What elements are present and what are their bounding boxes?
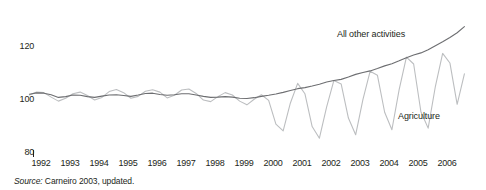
x-axis-label-1994: 1994 — [85, 158, 113, 168]
x-axis-label-2004: 2004 — [375, 158, 403, 168]
series-line-agriculture — [29, 53, 464, 138]
x-axis-label-2003: 2003 — [346, 158, 374, 168]
x-axis-label-2001: 2001 — [288, 158, 316, 168]
chart-container: 120 100 80 1992 1993 1994 1995 1996 1997… — [0, 0, 486, 190]
x-axis-label-2002: 2002 — [317, 158, 345, 168]
x-axis-label-2006: 2006 — [433, 158, 461, 168]
x-axis-label-1993: 1993 — [56, 158, 84, 168]
all-other-activities-label: All other activities — [337, 29, 405, 39]
source-note-keyword: Source: — [14, 176, 43, 186]
y-axis-label-100: 100 — [10, 94, 34, 104]
x-axis-label-1999: 1999 — [230, 158, 258, 168]
x-axis-label-1996: 1996 — [143, 158, 171, 168]
x-axis-label-1992: 1992 — [27, 158, 55, 168]
agriculture-label: Agriculture — [398, 111, 440, 121]
x-axis-label-1998: 1998 — [201, 158, 229, 168]
x-axis-label-2005: 2005 — [404, 158, 432, 168]
y-axis-label-80: 80 — [10, 147, 34, 157]
y-axis-label-120: 120 — [10, 41, 34, 51]
source-note: Source: Carneiro 2003, updated. — [14, 176, 134, 186]
x-axis-label-1995: 1995 — [114, 158, 142, 168]
x-axis-label-1997: 1997 — [172, 158, 200, 168]
source-note-text: Carneiro 2003, updated. — [43, 176, 135, 186]
x-axis-label-2000: 2000 — [259, 158, 287, 168]
